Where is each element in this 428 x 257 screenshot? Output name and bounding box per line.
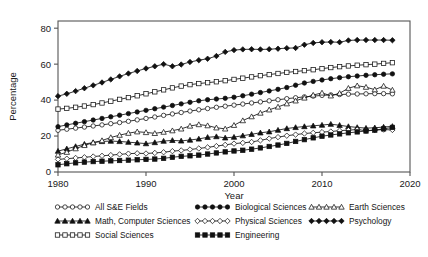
data-point-filled-square — [100, 159, 104, 163]
data-point-filled-circle — [203, 205, 207, 209]
data-point-open-square — [73, 105, 77, 109]
data-point-filled-diamond — [302, 42, 307, 47]
data-point-open-circle — [258, 100, 262, 104]
legend-item-psychology[interactable]: Psychology — [309, 216, 392, 226]
legend-item-physical-sciences[interactable]: Physical Sciences — [195, 216, 302, 226]
chart-canvas: 020406080 19801990200020102020 YearPerce… — [0, 0, 428, 257]
data-point-open-diamond — [202, 218, 207, 223]
series-line — [58, 40, 392, 96]
data-point-open-square — [249, 75, 253, 79]
data-point-open-square — [267, 72, 271, 76]
data-point-open-square — [320, 66, 324, 70]
data-point-filled-diamond — [284, 45, 289, 50]
data-point-filled-circle — [144, 108, 148, 112]
data-point-filled-circle — [249, 92, 253, 96]
data-point-filled-square — [56, 163, 60, 167]
data-point-open-square — [78, 233, 82, 237]
data-point-open-square — [109, 99, 113, 103]
y-tick-label: 20 — [40, 130, 51, 141]
data-point-open-triangle — [381, 83, 386, 88]
data-point-open-diamond — [55, 157, 60, 162]
data-point-open-circle — [82, 125, 86, 129]
data-point-filled-diamond — [267, 47, 272, 52]
x-tick-label: 1980 — [47, 178, 68, 189]
data-point-open-triangle — [355, 83, 360, 88]
data-point-filled-circle — [329, 77, 333, 81]
data-point-open-circle — [276, 98, 280, 102]
data-point-open-circle — [65, 127, 69, 131]
data-point-open-square — [56, 107, 60, 111]
data-point-filled-square — [161, 156, 165, 160]
data-point-filled-diamond — [64, 91, 69, 96]
data-point-open-square — [82, 104, 86, 108]
data-point-filled-diamond — [143, 66, 148, 71]
legend-item-math-computer-sciences[interactable]: Math, Computer Sciences — [55, 216, 191, 226]
data-point-filled-diamond — [324, 218, 329, 223]
data-point-filled-square — [373, 128, 377, 132]
data-point-open-square — [390, 61, 394, 65]
data-point-open-diamond — [143, 151, 148, 156]
legend-item-engineering[interactable]: Engineering — [195, 230, 279, 240]
data-point-open-square — [91, 102, 95, 106]
data-point-filled-diamond — [205, 56, 210, 61]
data-point-filled-circle — [225, 205, 229, 209]
data-point-filled-diamond — [152, 64, 157, 69]
data-point-open-triangle — [196, 122, 201, 127]
data-point-filled-diamond — [258, 47, 263, 52]
data-point-filled-square — [311, 136, 315, 140]
data-point-filled-square — [302, 137, 306, 141]
data-point-filled-square — [364, 129, 368, 133]
data-point-open-square — [285, 70, 289, 74]
data-point-filled-square — [293, 139, 297, 143]
data-point-open-circle — [267, 99, 271, 103]
data-point-open-diamond — [196, 146, 201, 151]
data-point-filled-square — [170, 155, 174, 159]
data-point-open-diamond — [214, 143, 219, 148]
data-point-open-square — [63, 233, 67, 237]
data-point-filled-diamond — [196, 57, 201, 62]
data-point-filled-diamond — [381, 37, 386, 42]
data-point-open-diamond — [311, 130, 316, 135]
data-point-open-circle — [55, 205, 59, 209]
data-point-open-square — [373, 62, 377, 66]
data-point-open-diamond — [82, 155, 87, 160]
data-point-filled-circle — [205, 98, 209, 102]
data-point-open-square — [85, 233, 89, 237]
data-point-open-square — [381, 61, 385, 65]
chart-figure: 020406080 19801990200020102020 YearPerce… — [0, 0, 428, 257]
data-point-open-circle — [135, 118, 139, 122]
data-point-open-square — [232, 77, 236, 81]
data-point-filled-circle — [258, 90, 262, 94]
data-point-filled-diamond — [135, 68, 140, 73]
legend-item-all-s-e-fields[interactable]: All S&E Fields — [55, 202, 147, 212]
data-point-filled-diamond — [328, 39, 333, 44]
data-point-filled-square — [195, 233, 199, 237]
data-point-filled-diamond — [161, 61, 166, 66]
legend-item-earth-sciences[interactable]: Earth Sciences — [309, 202, 405, 212]
data-point-open-diamond — [170, 148, 175, 153]
legend-item-social-sciences[interactable]: Social Sciences — [55, 230, 153, 240]
data-point-filled-circle — [56, 125, 60, 129]
data-point-open-circle — [78, 205, 82, 209]
data-point-open-diamond — [152, 150, 157, 155]
data-point-open-square — [197, 81, 201, 85]
data-point-open-circle — [381, 91, 385, 95]
data-point-filled-square — [355, 130, 359, 134]
data-point-filled-diamond — [339, 218, 344, 223]
data-point-filled-square — [126, 158, 130, 162]
data-point-filled-square — [329, 133, 333, 137]
data-point-filled-square — [109, 159, 113, 163]
data-point-filled-circle — [126, 111, 130, 115]
data-point-filled-circle — [135, 110, 139, 114]
data-point-filled-diamond — [316, 218, 321, 223]
y-tick-label: 60 — [40, 59, 51, 70]
data-point-filled-diamond — [319, 40, 324, 45]
x-tick-label: 2000 — [223, 178, 244, 189]
data-point-filled-circle — [91, 118, 95, 122]
data-point-open-diamond — [293, 132, 298, 137]
data-point-filled-diamond — [372, 37, 377, 42]
legend-item-biological-sciences[interactable]: Biological Sciences — [195, 202, 306, 212]
data-point-filled-diamond — [214, 53, 219, 58]
data-point-filled-diamond — [275, 46, 280, 51]
data-point-open-circle — [100, 123, 104, 127]
